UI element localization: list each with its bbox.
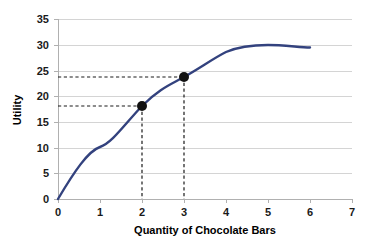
x-label-2: 2 (139, 206, 145, 218)
data-point-q3[interactable] (179, 72, 189, 82)
x-label-1: 1 (97, 206, 103, 218)
utility-curve-chart: 35 30 25 20 15 10 5 0 0 1 2 3 4 5 6 7 Qu… (0, 0, 373, 248)
y-label-0: 0 (43, 193, 49, 205)
x-label-6: 6 (307, 206, 313, 218)
y-label-35: 35 (37, 13, 49, 25)
y-label-10: 10 (37, 142, 49, 154)
chart-canvas: 35 30 25 20 15 10 5 0 0 1 2 3 4 5 6 7 Qu… (0, 0, 373, 248)
x-label-3: 3 (181, 206, 187, 218)
x-axis-title: Quantity of Chocolate Bars (134, 224, 276, 236)
x-label-5: 5 (265, 206, 271, 218)
y-label-20: 20 (37, 90, 49, 102)
x-label-7: 7 (349, 206, 355, 218)
y-label-25: 25 (37, 65, 49, 77)
y-label-30: 30 (37, 39, 49, 51)
y-label-15: 15 (37, 116, 49, 128)
y-label-5: 5 (43, 167, 49, 179)
y-axis-title: Utility (11, 94, 23, 125)
x-label-0: 0 (55, 206, 61, 218)
x-label-4: 4 (223, 206, 230, 218)
data-point-q2[interactable] (137, 101, 147, 111)
